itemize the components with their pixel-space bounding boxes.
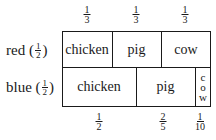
red-pig-cell: pig bbox=[112, 31, 161, 68]
red-chicken-cell: chicken bbox=[62, 31, 112, 68]
blue-cow-fraction: 1 10 bbox=[194, 112, 206, 131]
row-label-red: red (12) bbox=[6, 38, 47, 62]
blue-chicken-cell: chicken bbox=[62, 67, 136, 107]
blue-row-fraction: 12 bbox=[42, 79, 49, 96]
red-cow-fraction: 1 3 bbox=[182, 5, 189, 24]
red-pig-fraction: 1 3 bbox=[133, 5, 140, 24]
blue-cow-cell: c o w bbox=[195, 67, 211, 107]
red-cow-cell: cow bbox=[161, 31, 211, 68]
red-row-fraction: 12 bbox=[35, 42, 42, 59]
blue-chicken-fraction: 1 2 bbox=[96, 112, 103, 131]
red-chicken-fraction: 1 3 bbox=[84, 5, 91, 24]
blue-pig-fraction: 2 5 bbox=[160, 112, 167, 131]
blue-pig-cell: pig bbox=[136, 67, 195, 107]
row-label-blue: blue (12) bbox=[6, 75, 54, 99]
